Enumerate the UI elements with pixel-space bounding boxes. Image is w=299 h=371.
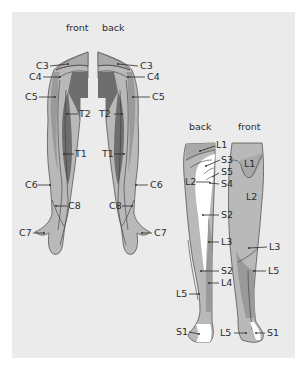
label-t1-front: T1 xyxy=(74,148,87,159)
label-c5-front: C5 xyxy=(25,91,38,102)
label-s1-back: S1 xyxy=(176,326,188,337)
label-l5-front-lower: L5 xyxy=(220,327,231,338)
label-c7-back: C7 xyxy=(154,227,167,238)
leg-back xyxy=(184,143,215,342)
label-l4-back: L4 xyxy=(221,277,232,288)
legs-front-label: front xyxy=(238,121,261,132)
label-l2-front: L2 xyxy=(246,191,257,202)
label-s3-back: S3 xyxy=(221,154,233,165)
label-l5-front-upper: L5 xyxy=(268,265,279,276)
label-c5-back: C5 xyxy=(152,91,165,102)
dermatome-diagram: front back C3 C4 C5 T2 T1 C6 C8 C7 C3 C4… xyxy=(0,0,299,371)
label-t2-back: T2 xyxy=(98,108,111,119)
label-l2-back: L2 xyxy=(185,176,196,187)
label-t2-front: T2 xyxy=(78,108,91,119)
label-c6-back: C6 xyxy=(150,179,163,190)
label-l1-front: L1 xyxy=(244,158,255,169)
label-s2-back-upper: S2 xyxy=(221,209,233,220)
label-c7-front: C7 xyxy=(19,227,32,238)
label-c4-front: C4 xyxy=(29,71,42,82)
arms-back-label: back xyxy=(102,22,125,33)
label-c8-front: C8 xyxy=(68,200,81,211)
label-c6-front: C6 xyxy=(25,179,38,190)
label-l3-back: L3 xyxy=(221,236,232,247)
label-t1-back: T1 xyxy=(101,148,114,159)
label-c4-back: C4 xyxy=(147,71,160,82)
label-s4-back: S4 xyxy=(221,178,233,189)
arms-front-label: front xyxy=(66,22,89,33)
label-c8-back: C8 xyxy=(109,200,122,211)
label-c3-back: C3 xyxy=(140,60,153,71)
label-c3-front: C3 xyxy=(36,60,49,71)
legs-back-label: back xyxy=(189,121,212,132)
label-s1-front: S1 xyxy=(267,327,279,338)
label-l3-front: L3 xyxy=(269,241,280,252)
label-l5-back: L5 xyxy=(176,288,187,299)
label-s5-back: S5 xyxy=(221,166,233,177)
leg-front xyxy=(229,143,264,342)
label-l1-back: L1 xyxy=(216,139,227,150)
label-s2-back-lower: S2 xyxy=(221,265,233,276)
